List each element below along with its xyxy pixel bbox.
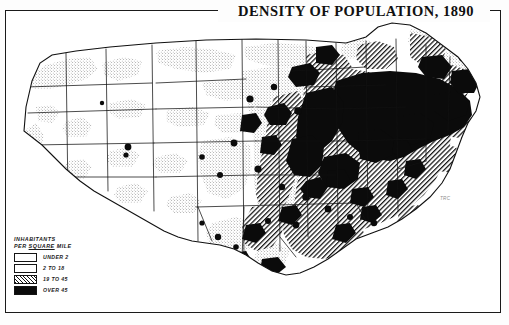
- legend-swatch-2-to-18: [14, 264, 37, 273]
- legend-item-2-to-18[interactable]: 2 TO 18: [14, 263, 100, 274]
- legend-label-over-45: OVER 45: [43, 287, 68, 293]
- legend-label-under-2: UNDER 2: [43, 254, 69, 260]
- legend-item-over-45[interactable]: OVER 45: [14, 285, 100, 296]
- legend-swatch-19-to-45: [14, 275, 37, 284]
- legend-label-2-to-18: 2 TO 18: [43, 265, 64, 271]
- map-page: DENSITY OF POPULATION, 1890: [0, 0, 509, 325]
- legend-title-underlined: SQUARE: [29, 243, 55, 249]
- artist-signature: TRC: [440, 196, 450, 201]
- legend-title-line1: INHABITANTS: [14, 236, 56, 242]
- legend-title: INHABITANTS PER SQUARE MILE: [14, 236, 100, 249]
- legend-rows: UNDER 2 2 TO 18 19 TO 45 OVER 45: [14, 252, 100, 296]
- legend-item-under-2[interactable]: UNDER 2: [14, 252, 100, 263]
- legend-swatch-over-45: [14, 286, 37, 295]
- legend-item-19-to-45[interactable]: 19 TO 45: [14, 274, 100, 285]
- legend-title-suffix: MILE: [55, 243, 72, 249]
- legend-title-prefix: PER: [14, 243, 29, 249]
- legend: INHABITANTS PER SQUARE MILE UNDER 2 2 TO…: [14, 236, 100, 296]
- legend-swatch-under-2: [14, 253, 37, 262]
- legend-label-19-to-45: 19 TO 45: [43, 276, 68, 282]
